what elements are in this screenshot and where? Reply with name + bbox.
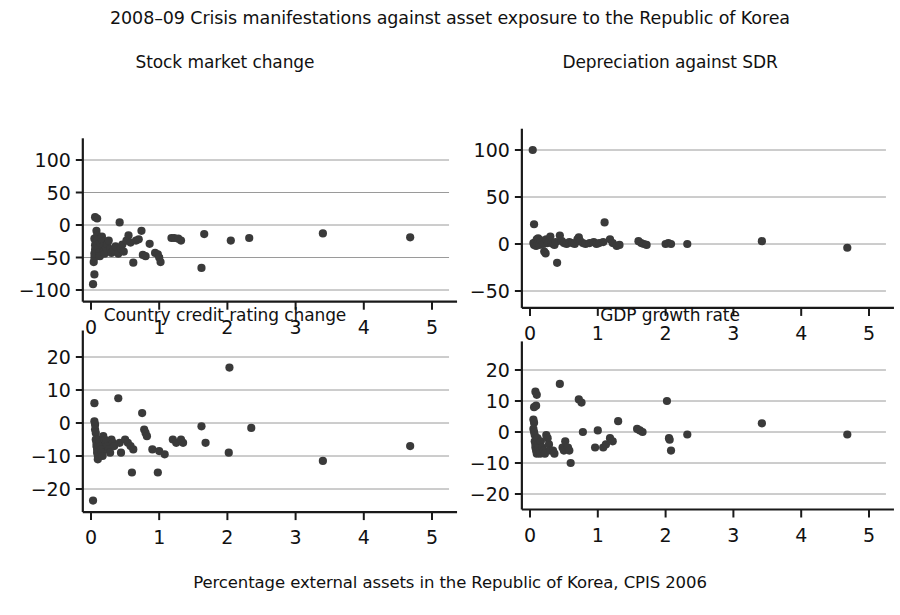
data-point [89, 280, 97, 288]
panel-country-credit-rating-change: Country credit rating change −20−1001020… [0, 305, 450, 555]
data-point [567, 459, 575, 467]
y-tick-label: −100 [19, 279, 71, 301]
data-point [90, 270, 98, 278]
y-tick-label: 0 [59, 214, 71, 236]
x-tick-label: 3 [727, 524, 739, 546]
data-point [148, 445, 156, 453]
data-point [90, 399, 98, 407]
plot-area-stock-market-change: −100−50050100012345 [0, 52, 450, 292]
data-point [179, 439, 187, 447]
plot-area-depreciation-against-sdr: −50050100012345 [440, 52, 900, 292]
data-point [541, 249, 549, 257]
x-tick-label: 0 [524, 524, 536, 546]
y-tick-label: −50 [470, 280, 510, 302]
data-point [98, 452, 106, 460]
x-tick-label: 1 [592, 524, 604, 546]
data-point [577, 398, 585, 406]
y-tick-label: −20 [31, 478, 71, 500]
y-tick-label: 10 [486, 390, 510, 412]
data-point [105, 237, 113, 245]
data-point [600, 218, 608, 226]
y-tick-label: −50 [31, 247, 71, 269]
data-point [137, 227, 145, 235]
data-point [200, 230, 208, 238]
data-point [124, 231, 132, 239]
data-point [666, 436, 674, 444]
panel-stock-market-change: Stock market change −100−50050100012345 [0, 52, 450, 292]
plot-area-gdp-growth-rate: −20−1001020012345 [440, 305, 900, 555]
data-point [197, 264, 205, 272]
data-point [843, 244, 851, 252]
data-point [533, 391, 541, 399]
data-point [225, 363, 233, 371]
y-tick-label: 20 [486, 359, 510, 381]
data-point [663, 397, 671, 405]
data-point [643, 241, 651, 249]
x-tick-label: 5 [863, 524, 875, 546]
data-point [225, 449, 233, 457]
figure-container: 2008–09 Crisis manifestations against as… [0, 0, 900, 615]
data-point [553, 259, 561, 267]
y-tick-label: 0 [498, 233, 510, 255]
data-point [406, 442, 414, 450]
data-point [247, 424, 255, 432]
x-tick-label: 4 [358, 526, 370, 548]
data-point [138, 409, 146, 417]
x-tick-label: 1 [153, 526, 165, 548]
data-point [614, 417, 622, 425]
data-point [638, 428, 646, 436]
data-point [227, 237, 235, 245]
data-point [591, 443, 599, 451]
x-tick-label: 2 [660, 524, 672, 546]
data-point [683, 430, 691, 438]
y-tick-label: −10 [470, 452, 510, 474]
data-point [177, 237, 185, 245]
data-point [120, 248, 128, 256]
data-point [143, 432, 151, 440]
data-point [319, 229, 327, 237]
data-point [579, 428, 587, 436]
data-point [161, 450, 169, 458]
data-point [114, 394, 122, 402]
panel-gdp-growth-rate: GDP growth rate −20−1001020012345 [440, 305, 900, 555]
data-point [156, 258, 164, 266]
x-tick-label: 3 [290, 526, 302, 548]
data-point [197, 422, 205, 430]
y-tick-label: 50 [47, 182, 71, 204]
data-point [141, 252, 149, 260]
plot-area-country-credit-rating-change: −20−1001020012345 [0, 305, 450, 555]
data-point [758, 419, 766, 427]
x-tick-label: 5 [426, 526, 438, 548]
shared-x-axis-label: Percentage external assets in the Republ… [0, 573, 900, 592]
data-point [93, 214, 101, 222]
y-tick-label: 10 [47, 379, 71, 401]
data-point [565, 447, 573, 455]
y-tick-label: 20 [47, 346, 71, 368]
figure-title: 2008–09 Crisis manifestations against as… [0, 8, 900, 28]
data-point [129, 259, 137, 267]
data-point [146, 240, 154, 248]
data-point [550, 450, 558, 458]
data-point [245, 234, 253, 242]
data-point [128, 468, 136, 476]
data-point [532, 402, 540, 410]
data-point [319, 457, 327, 465]
y-tick-label: 50 [486, 186, 510, 208]
y-tick-label: 0 [59, 412, 71, 434]
y-tick-label: 100 [474, 139, 510, 161]
data-point [667, 240, 675, 248]
y-tick-label: −10 [31, 445, 71, 467]
data-point [530, 220, 538, 228]
data-point [758, 237, 766, 245]
y-tick-label: −20 [470, 483, 510, 505]
data-point [615, 241, 623, 249]
data-point [117, 449, 125, 457]
data-point [129, 445, 137, 453]
y-tick-label: 100 [35, 149, 71, 171]
data-point [556, 380, 564, 388]
data-point [683, 240, 691, 248]
data-point [89, 496, 97, 504]
data-point [843, 430, 851, 438]
data-point [667, 447, 675, 455]
data-point [406, 233, 414, 241]
